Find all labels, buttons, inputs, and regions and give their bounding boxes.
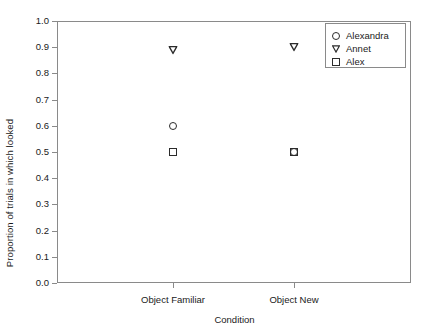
legend-item-annet: Annet: [326, 42, 407, 55]
y-tick-mark: [52, 152, 57, 153]
y-tick-label: 1.0: [36, 14, 49, 27]
x-axis-tick: Object Familiar: [173, 283, 174, 284]
y-tick-label: 0.7: [36, 93, 49, 106]
legend-item-alexandra: Alexandra: [326, 29, 407, 42]
x-tick-label: Object New: [269, 293, 318, 306]
legend-label: Alex: [346, 56, 364, 68]
y-tick-label: 0.9: [36, 40, 49, 53]
data-point-triangle: [290, 43, 299, 52]
data-point-square: [290, 148, 298, 156]
y-tick-label: 0.2: [36, 224, 49, 237]
legend-item-alex: Alex: [326, 55, 407, 68]
y-tick-mark: [52, 257, 57, 258]
y-tick-label: 0.3: [36, 197, 49, 210]
y-tick-mark: [52, 178, 57, 179]
triangle-down-marker-icon: [332, 45, 340, 53]
y-tick-mark: [52, 100, 57, 101]
y-tick-mark: [52, 283, 57, 284]
y-tick-label: 0.4: [36, 171, 49, 184]
y-tick-mark: [52, 73, 57, 74]
y-axis-tick: 0.4: [0, 178, 57, 179]
y-tick-label: 0.6: [36, 119, 49, 132]
x-tick-mark: [173, 283, 174, 288]
y-tick-label: 0.8: [36, 66, 49, 79]
y-tick-label: 0.5: [36, 145, 49, 158]
data-point-triangle: [169, 45, 178, 54]
legend-symbol: [326, 32, 346, 40]
y-axis-tick: 0.5: [0, 152, 57, 153]
legend-symbol: [326, 58, 346, 66]
y-tick-label: 0.1: [36, 250, 49, 263]
y-axis-tick: 0.1: [0, 257, 57, 258]
y-axis-tick: 0.6: [0, 126, 57, 127]
y-tick-mark: [52, 21, 57, 22]
x-tick-label: Object Familiar: [141, 293, 205, 306]
y-axis-tick: 0.9: [0, 47, 57, 48]
y-tick-mark: [52, 47, 57, 48]
y-axis-tick: 0.0: [0, 283, 57, 284]
y-axis-title-text: Proportion of trials in which looked: [4, 119, 15, 267]
y-tick-mark: [52, 126, 57, 127]
legend-label: Alexandra: [346, 30, 389, 42]
y-axis-tick: 0.7: [0, 100, 57, 101]
data-point-square: [169, 148, 177, 156]
data-point-circle: [169, 122, 177, 130]
y-tick-mark: [52, 231, 57, 232]
circle-marker-icon: [332, 32, 340, 40]
y-axis-tick: 0.3: [0, 204, 57, 205]
square-marker-icon: [332, 58, 340, 66]
y-axis-tick: 0.8: [0, 73, 57, 74]
x-axis-title: Condition: [57, 314, 412, 325]
y-axis-tick: 0.2: [0, 231, 57, 232]
legend-symbol: [326, 45, 346, 53]
y-tick-mark: [52, 204, 57, 205]
scatter-plot-figure: Proportion of trials in which looked 0.0…: [0, 0, 432, 334]
x-tick-mark: [294, 283, 295, 288]
y-axis-tick: 1.0: [0, 21, 57, 22]
x-axis-tick: Object New: [294, 283, 295, 284]
legend: AlexandraAnnetAlex: [325, 23, 406, 68]
y-tick-label: 0.0: [36, 276, 49, 289]
legend-label: Annet: [346, 43, 371, 55]
